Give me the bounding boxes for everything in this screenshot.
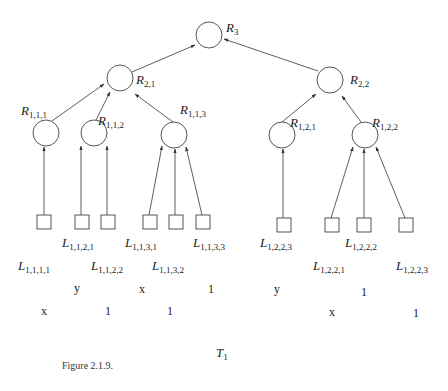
label-l1111: L1,1,1,1 bbox=[18, 259, 50, 275]
value-l1223: y bbox=[274, 283, 280, 295]
leaf-l1131 bbox=[143, 215, 157, 229]
edge-l1223b-r122 bbox=[376, 147, 405, 218]
label-r111: R1,1,1 bbox=[21, 104, 47, 120]
label-l1133: L1,1,3,3 bbox=[193, 236, 225, 252]
tree-diagram bbox=[0, 0, 448, 391]
label-r113: R1,1,3 bbox=[180, 103, 206, 119]
leaf-l1121 bbox=[75, 215, 89, 229]
label-l1132: L1,1,3,2 bbox=[152, 259, 184, 275]
leaf-l1111 bbox=[37, 215, 51, 229]
node-r113 bbox=[161, 122, 187, 148]
label-l1223b: L1,2,2,3 bbox=[396, 259, 428, 275]
label-l1131: L1,1,3,1 bbox=[125, 236, 157, 252]
edge-r21-r3 bbox=[132, 45, 195, 72]
edge-r111-r21 bbox=[52, 84, 104, 121]
label-r112: R1,1,2 bbox=[98, 114, 124, 130]
figure-caption: Figure 2.1.9. bbox=[62, 360, 113, 371]
label-l1222: L1,2,2,2 bbox=[345, 236, 377, 252]
leaf-l1221 bbox=[325, 218, 339, 232]
edge-l1221-r122 bbox=[331, 147, 353, 218]
value-l1122: 1 bbox=[105, 305, 111, 317]
edge-l1133-r113 bbox=[186, 147, 202, 215]
value-l1222: 1 bbox=[361, 286, 367, 298]
edge-r122-r22 bbox=[342, 96, 361, 122]
value-l1131: x bbox=[139, 283, 145, 295]
label-l1122: L1,1,2,2 bbox=[91, 259, 123, 275]
label-l1221: L1,2,2,1 bbox=[313, 259, 345, 275]
node-r22 bbox=[317, 67, 343, 93]
leaf-l1122 bbox=[101, 215, 115, 229]
value-l1132: 1 bbox=[167, 305, 173, 317]
label-r21: R2,1 bbox=[136, 73, 155, 89]
leaf-l1133 bbox=[196, 215, 210, 229]
edge-r22-r3 bbox=[224, 39, 318, 71]
label-r122: R1,2,2 bbox=[372, 116, 398, 132]
label-r22: R2,2 bbox=[350, 73, 369, 89]
label-l1223: L1,2,2,3 bbox=[260, 236, 292, 252]
node-r111 bbox=[33, 120, 59, 146]
value-l1223b: 1 bbox=[413, 307, 419, 319]
value-l1133: 1 bbox=[208, 283, 214, 295]
tree-title: T1 bbox=[216, 345, 228, 362]
value-l1221: x bbox=[329, 306, 335, 318]
node-r21 bbox=[107, 65, 133, 91]
label-r3: R3 bbox=[226, 21, 238, 37]
leaf-l1223 bbox=[277, 218, 291, 232]
value-l1111: x bbox=[41, 305, 47, 317]
leaf-l1222 bbox=[357, 218, 371, 232]
node-r3 bbox=[196, 22, 222, 48]
edge-r113-r21 bbox=[135, 94, 173, 122]
label-l1121: L1,1,2,1 bbox=[62, 236, 94, 252]
value-l1121: y bbox=[74, 282, 80, 294]
leaf-l1223b bbox=[399, 218, 413, 232]
label-r121: R1,2,1 bbox=[290, 116, 316, 132]
edge-l1131-r113 bbox=[149, 146, 162, 215]
leaf-l1132 bbox=[169, 215, 183, 229]
